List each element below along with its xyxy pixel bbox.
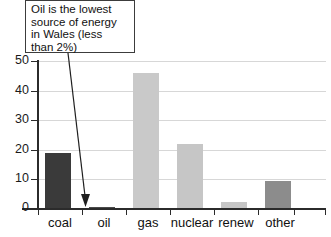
annotation-line-3: in Wales (less [31,28,130,41]
x-tick-label-other: other [258,216,302,229]
x-axis-line [22,208,326,210]
y-tick-label-0: 0 [22,201,29,214]
bar-other [265,181,291,209]
bar-nuclear [177,144,203,209]
y-tick-label-40: 40 [15,84,29,97]
x-tick-mark-5 [258,210,259,215]
x-tick-mark-1 [82,210,83,215]
y-tick-mark-20 [31,150,38,151]
y-tick-label-10: 10 [15,172,29,185]
x-tick-label-renew: renew [214,216,258,229]
y-tick-mark-40 [31,91,38,92]
plot-area [38,61,326,209]
y-tick-mark-30 [31,120,38,121]
gridline-50 [38,61,326,62]
y-tick-label-20: 20 [15,143,29,156]
bar-chart: 50 40 30 20 10 0 coal oil gas nuclear re… [0,0,331,237]
annotation-line-4: than 2%) [31,41,130,54]
x-tick-label-gas: gas [126,216,170,229]
y-axis-line [37,60,39,210]
gridline-30 [38,120,326,121]
bar-gas [133,73,159,209]
x-tick-mark-0 [38,210,39,215]
x-tick-mark-2 [126,210,127,215]
gridline-40 [38,91,326,92]
bar-coal [45,153,71,209]
annotation-line-1: Oil is the lowest [31,3,130,16]
annotation-line-2: source of energy [31,16,130,29]
x-tick-label-oil: oil [82,216,126,229]
y-tick-label-50: 50 [15,54,29,67]
annotation-callout: Oil is the lowest source of energy in Wa… [25,0,135,53]
x-tick-mark-7 [325,210,326,215]
y-tick-mark-50 [31,61,38,62]
x-tick-label-nuclear: nuclear [168,216,216,229]
x-tick-mark-4 [214,210,215,215]
y-tick-label-30: 30 [15,113,29,126]
y-tick-mark-0 [31,208,38,209]
y-tick-mark-10 [31,179,38,180]
x-tick-label-coal: coal [38,216,82,229]
